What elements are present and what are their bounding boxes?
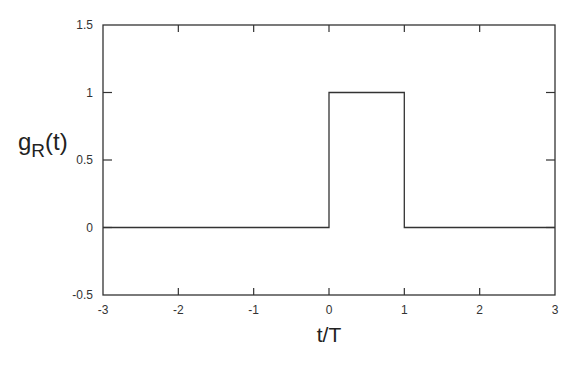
y-tick-labels: -0.500.511.5 bbox=[72, 18, 93, 302]
y-tick-label: 0.5 bbox=[76, 153, 93, 167]
x-tick-label: 0 bbox=[326, 303, 333, 317]
y-axis-title: gR(t) bbox=[18, 128, 68, 161]
y-tick-label: 1.5 bbox=[76, 18, 93, 32]
y-tick-label: 0 bbox=[86, 221, 93, 235]
x-tick-label: -3 bbox=[98, 303, 109, 317]
x-tick-label: 3 bbox=[552, 303, 559, 317]
pulse-line bbox=[103, 93, 555, 228]
x-tick-label: -1 bbox=[248, 303, 259, 317]
x-axis-title: t/T bbox=[317, 323, 342, 346]
y-tick-label: 1 bbox=[86, 86, 93, 100]
pulse-chart: -3-2-10123 -0.500.511.5 t/T gR(t) bbox=[0, 0, 577, 373]
x-tick-labels: -3-2-10123 bbox=[98, 303, 559, 317]
y-axis-title-subscript: R bbox=[31, 140, 45, 161]
x-tick-label: 1 bbox=[401, 303, 408, 317]
y-axis-title-main: g bbox=[18, 128, 31, 155]
y-axis-title-suffix: (t) bbox=[45, 128, 68, 155]
x-tick-label: 2 bbox=[476, 303, 483, 317]
x-tick-label: -2 bbox=[173, 303, 184, 317]
y-tick-label: -0.5 bbox=[72, 288, 93, 302]
